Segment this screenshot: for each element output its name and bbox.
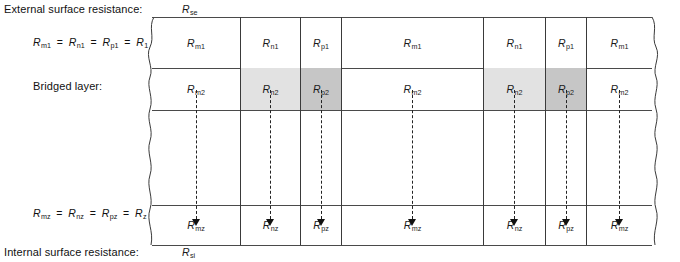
symbol-r-si: Rsi <box>182 246 195 258</box>
heat-flow-arrow-head-3 <box>317 219 325 226</box>
grid-cell-layer1-1: Rm1 <box>152 17 240 68</box>
equation-layer-1: Rm1 = Rn1 = Rp1 = R1 <box>33 36 148 48</box>
cell-resistance-label: Rm1 <box>611 37 629 49</box>
bridged-layer-label: Bridged layer: <box>33 80 102 92</box>
grid-cell-layer1-7: Rm1 <box>586 17 652 68</box>
symbol-r-se: Rse <box>182 3 197 15</box>
cell-resistance-label: Rp1 <box>313 37 329 49</box>
grid-cell-layer1-2: Rn1 <box>240 17 300 68</box>
wall-construction-grid: Rm1Rn1Rp1Rm1Rn1Rp1Rm1Rm2Rn2Rp2Rm2Rn2Rp2R… <box>152 17 652 245</box>
heat-flow-arrow-line-3 <box>321 90 322 219</box>
grid-cell-layer1-5: Rn1 <box>483 17 545 68</box>
cell-resistance-label: Rn1 <box>507 37 523 49</box>
heat-flow-arrow-line-1 <box>196 90 197 219</box>
heat-flow-arrow-line-7 <box>619 90 620 219</box>
grid-cell-layer1-3: Rp1 <box>300 17 341 68</box>
heat-flow-arrow-head-1 <box>192 219 200 226</box>
heat-flow-arrow-head-2 <box>266 219 274 226</box>
heat-flow-arrow-head-5 <box>510 219 518 226</box>
grid-cell-layer1-6: Rp1 <box>545 17 586 68</box>
grid-cell-layer1-4: Rm1 <box>341 17 483 68</box>
cell-resistance-label: Rm1 <box>187 37 205 49</box>
heat-flow-arrow-head-7 <box>615 219 623 226</box>
equation-layer-z: Rmz = Rnz = Rpz = Rz <box>33 207 146 219</box>
grid-horizontal-line <box>152 245 652 246</box>
heat-flow-arrow-head-6 <box>562 219 570 226</box>
cell-resistance-label: Rn1 <box>263 37 279 49</box>
external-surface-resistance-label: External surface resistance: <box>4 3 143 15</box>
heat-flow-arrow-line-2 <box>270 90 271 219</box>
cell-resistance-label: Rp1 <box>558 37 574 49</box>
heat-flow-arrow-line-5 <box>514 90 515 219</box>
heat-flow-arrow-head-4 <box>408 219 416 226</box>
diagram-canvas: External surface resistance: Internal su… <box>0 0 680 262</box>
cell-resistance-label: Rm1 <box>404 37 422 49</box>
internal-surface-resistance-label: Internal surface resistance: <box>4 246 139 258</box>
heat-flow-arrow-line-4 <box>412 90 413 219</box>
heat-flow-arrow-line-6 <box>566 90 567 219</box>
